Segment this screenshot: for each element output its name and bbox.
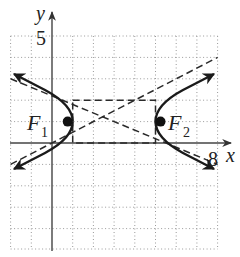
- y-axis-label: y: [34, 2, 45, 25]
- svg-text:2: 2: [183, 125, 190, 140]
- y-tick-label-5: 5: [36, 27, 46, 49]
- focus-f1-dot: [63, 117, 73, 127]
- left-branch-upper: [14, 74, 73, 122]
- focus-f2-label: F 2: [167, 110, 190, 140]
- svg-text:F: F: [167, 110, 182, 135]
- x-axis-label: x: [225, 144, 235, 166]
- hyperbola-graph: y 5 x 8 F 1 F 2: [0, 0, 240, 257]
- x-tick-label-8: 8: [208, 148, 218, 170]
- svg-text:F: F: [26, 110, 41, 135]
- right-branch-upper: [156, 74, 215, 122]
- focus-f1-label: F 1: [26, 110, 48, 140]
- svg-text:1: 1: [41, 125, 48, 140]
- focus-f2-dot: [156, 117, 166, 127]
